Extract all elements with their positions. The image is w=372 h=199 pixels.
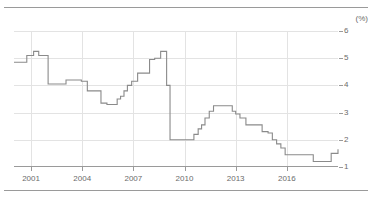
x-tick-label: 2001 bbox=[22, 174, 40, 183]
x-tick-mark bbox=[31, 167, 32, 171]
x-tick-label: 2010 bbox=[176, 174, 194, 183]
series-line-rate bbox=[14, 51, 338, 161]
top-divider-rule bbox=[4, 7, 368, 8]
y-tick-mark bbox=[339, 113, 343, 114]
y-tick-mark bbox=[339, 167, 343, 168]
y-tick-label: 2 bbox=[344, 136, 348, 144]
y-tick-label: 4 bbox=[344, 81, 348, 89]
y-tick-mark bbox=[339, 85, 343, 86]
y-axis-unit-label: (%) bbox=[356, 14, 368, 23]
y-tick-label: 1 bbox=[344, 163, 348, 171]
x-tick-label: 2004 bbox=[73, 174, 91, 183]
series-line-chart bbox=[14, 31, 338, 167]
x-tick-mark bbox=[236, 167, 237, 171]
bottom-divider-rule bbox=[4, 190, 368, 191]
x-tick-label: 2013 bbox=[227, 174, 245, 183]
y-tick-label: 5 bbox=[344, 54, 348, 62]
y-tick-mark bbox=[339, 31, 343, 32]
y-tick-label: 6 bbox=[344, 27, 348, 35]
y-tick-mark bbox=[339, 140, 343, 141]
chart-figure: (%) 123456 200120042007201020132016 bbox=[0, 0, 372, 199]
x-tick-mark bbox=[133, 167, 134, 171]
x-tick-label: 2016 bbox=[278, 174, 296, 183]
plot-area: 123456 200120042007201020132016 bbox=[14, 31, 338, 167]
x-tick-mark bbox=[185, 167, 186, 171]
x-tick-mark bbox=[287, 167, 288, 171]
x-tick-mark bbox=[82, 167, 83, 171]
y-tick-label: 3 bbox=[344, 109, 348, 117]
x-tick-label: 2007 bbox=[124, 174, 142, 183]
y-tick-mark bbox=[339, 58, 343, 59]
